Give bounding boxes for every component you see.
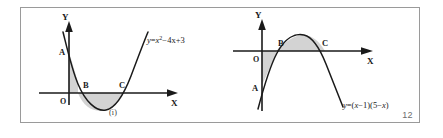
figure-frame: Y X O A B C y=x2−4x+3 (i) [20, 7, 420, 123]
equation-rest-i: −4x+3 [162, 35, 184, 45]
shaded-region-left-ii [262, 51, 276, 85]
y-axis-label-i: Y [62, 12, 69, 22]
x-axis-arrow-i [167, 89, 178, 97]
chart-svg-i: Y X O A B C y=x2−4x+3 [21, 8, 221, 124]
chart-panel-ii: Y X O A B C y=(x−1)(5−x) (ii) [221, 8, 419, 124]
x-axis-label-ii: X [367, 56, 374, 66]
equation-label-i: y=x2−4x+3 [146, 35, 185, 45]
chart-svg-ii: Y X O A B C y=(x−1)(5−x) [221, 8, 419, 124]
chart-panel-i: Y X O A B C y=x2−4x+3 (i) [21, 8, 221, 124]
point-label-a-i: A [59, 47, 66, 57]
y-axis-label-ii: Y [255, 10, 262, 20]
equation-five-ii: 5− [373, 100, 382, 110]
equation-close2-ii: ) [386, 100, 389, 110]
y-axis-arrow-ii [258, 19, 266, 30]
origin-label-ii: O [253, 55, 259, 64]
point-label-c-ii: C [322, 38, 328, 48]
panel-caption-i: (i) [109, 108, 117, 117]
x-axis-label-i: X [171, 98, 178, 108]
point-label-c-i: C [119, 80, 125, 90]
page-number: 12 [402, 110, 413, 120]
point-label-b-ii: B [278, 38, 284, 48]
y-axis-arrow-i [65, 21, 73, 32]
equation-minus1-ii: −1 [358, 100, 367, 110]
point-label-a-ii: A [252, 83, 259, 93]
origin-label-i: O [60, 97, 66, 106]
x-axis-arrow-ii [361, 47, 373, 55]
equation-label-ii: y=(x−1)(5−x) [342, 100, 389, 110]
point-label-b-i: B [83, 80, 89, 90]
